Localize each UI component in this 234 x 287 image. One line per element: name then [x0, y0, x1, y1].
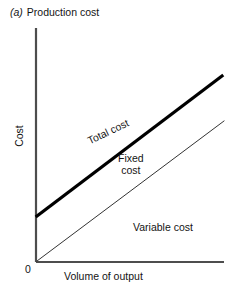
fixed-cost-annotation: Fixed cost: [118, 152, 144, 176]
figure-caption-text: Production cost: [27, 6, 99, 18]
total-cost-line: [37, 76, 222, 216]
variable-cost-annotation: Variable cost: [133, 221, 193, 233]
chart-plot-area: [0, 0, 234, 287]
x-axis-title: Volume of output: [64, 270, 143, 282]
origin-label: 0: [25, 263, 31, 275]
figure-caption-index: (a): [10, 6, 23, 18]
variable-cost-line: [37, 121, 224, 261]
fixed-cost-annotation-line1: Fixed: [118, 152, 144, 164]
production-cost-chart-figure: (a)Production cost Cost Volume of output…: [0, 0, 234, 287]
y-axis-title: Cost: [13, 114, 25, 158]
figure-caption: (a)Production cost: [10, 6, 99, 18]
fixed-cost-annotation-line2: cost: [118, 164, 144, 176]
